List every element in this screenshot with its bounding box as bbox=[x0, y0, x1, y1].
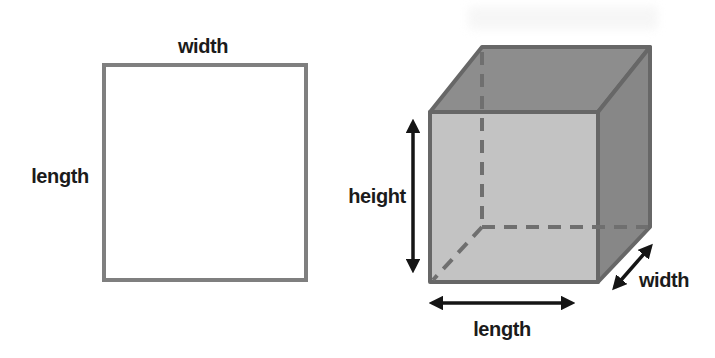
square-figure: width length bbox=[31, 35, 306, 280]
cube-figure: height length width bbox=[348, 47, 689, 340]
cube-height-label: height bbox=[348, 185, 406, 207]
cube-width-label: width bbox=[638, 269, 689, 291]
square-outline bbox=[104, 65, 306, 280]
square-width-label: width bbox=[177, 35, 228, 57]
dimensions-diagram: width length height length width bbox=[0, 0, 715, 358]
dimensions-diagram-stage: width length height length width bbox=[0, 0, 715, 358]
cube-length-label: length bbox=[473, 318, 531, 340]
cube-front-face bbox=[430, 112, 598, 282]
square-length-label: length bbox=[31, 165, 89, 187]
